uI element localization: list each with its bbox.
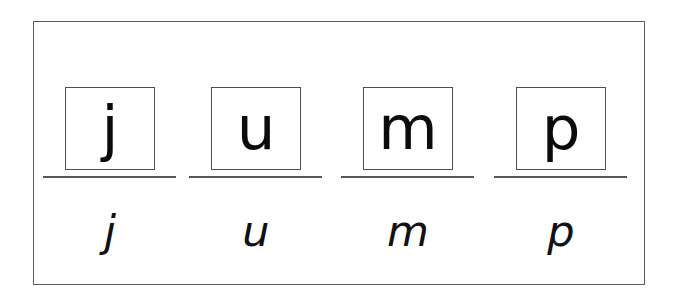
printed-letter: p (517, 88, 605, 169)
letter-cell: u u (186, 22, 326, 286)
script-letter: p (491, 200, 631, 262)
script-letter: u (186, 200, 326, 262)
letter-box: u (211, 87, 301, 170)
writing-rule (494, 176, 627, 178)
writing-rule (189, 176, 322, 178)
worksheet-frame: j j u u m m (33, 21, 645, 285)
script-letter: j (40, 200, 180, 262)
letter-worksheet: j j u u m m (0, 0, 677, 298)
printed-letter: j (66, 88, 154, 169)
letter-box: p (516, 87, 606, 170)
script-letter: m (338, 200, 478, 262)
letter-box: m (363, 87, 453, 170)
letter-cell: p p (491, 22, 631, 286)
letter-cell: j j (40, 22, 180, 286)
printed-letter: u (212, 88, 300, 169)
letter-cell: m m (338, 22, 478, 286)
writing-rule (43, 176, 176, 178)
writing-rule (341, 176, 474, 178)
letter-row: j j u u m m (34, 22, 646, 286)
printed-letter: m (364, 88, 452, 169)
letter-box: j (65, 87, 155, 170)
